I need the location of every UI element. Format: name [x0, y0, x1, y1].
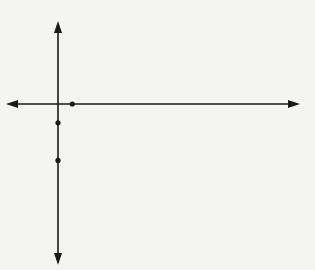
point-0.75-0 [70, 101, 75, 106]
y-axis-up-arrow-icon [54, 21, 62, 33]
x-axis-right-arrow-icon [288, 100, 300, 108]
point-0-neg1 [55, 120, 60, 125]
point-0-neg3 [55, 158, 60, 163]
x-axis-left-arrow-icon [6, 100, 18, 108]
y-axis-down-arrow-icon [54, 253, 62, 265]
axes [6, 21, 300, 265]
parabola-graph [0, 0, 315, 270]
